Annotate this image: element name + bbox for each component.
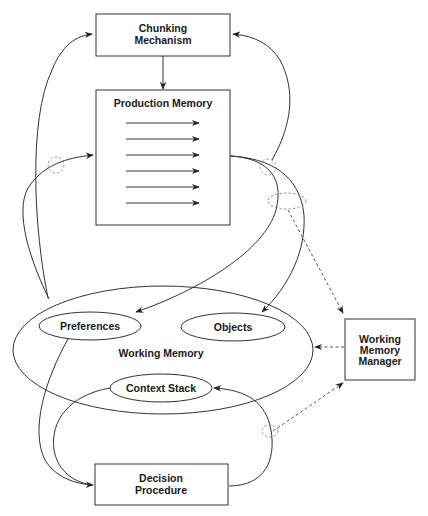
preferences-label: Preferences [60,320,120,332]
decision-label-line2: Procedure [135,484,187,496]
edge-wm-to-production [23,155,93,299]
production-memory-title: Production Memory [114,97,213,109]
context-stack-label: Context Stack [126,382,196,394]
tap-circle-left [48,157,64,173]
decision-procedure-box[interactable]: Decision Procedure [95,464,228,505]
preferences-ellipse[interactable]: Preferences [39,312,141,340]
soar-architecture-diagram: Chunking Mechanism Production Memory Pre… [0,0,428,516]
context-stack-ellipse[interactable]: Context Stack [110,374,212,402]
edge-decision-to-wmm-dashed [273,383,343,431]
production-memory-box[interactable]: Production Memory [96,90,230,225]
working-memory-manager-box[interactable]: Working Memory Manager [345,319,415,380]
tap-ellipse-right [268,193,306,209]
objects-label: Objects [214,321,253,333]
decision-label-line1: Decision [139,472,183,484]
working-memory-label: Working Memory [119,347,204,359]
edge-preferences-to-decision [39,339,93,485]
edge-production-to-chunking [233,34,290,160]
wmm-label-line3: Manager [358,355,401,367]
chunking-label-line1: Chunking [139,22,187,34]
chunking-mechanism-box[interactable]: Chunking Mechanism [96,14,230,56]
chunking-label-line2: Mechanism [134,34,191,46]
objects-ellipse[interactable]: Objects [181,313,285,341]
edge-production-to-objects [230,156,304,312]
